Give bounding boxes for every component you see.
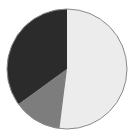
pie-chart <box>0 0 134 139</box>
pie-slice-1 <box>59 9 126 129</box>
pie-chart-canvas <box>0 0 134 139</box>
